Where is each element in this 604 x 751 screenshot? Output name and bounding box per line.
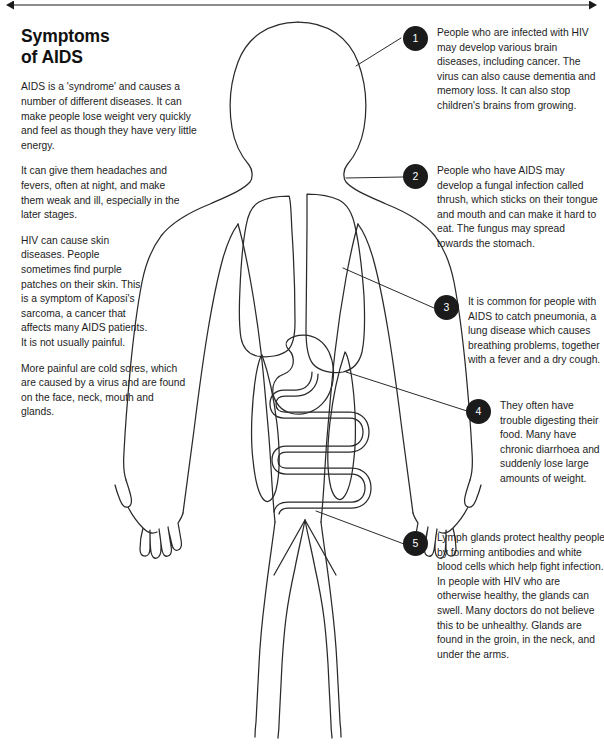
leader-line-4 — [346, 372, 467, 411]
callout-text-5: Lymph glands protect healthy people by f… — [437, 531, 604, 662]
callout-3: 3 It is common for people with AIDS to c… — [434, 295, 604, 368]
left-hand — [115, 480, 183, 558]
intro-paragraph-1: AIDS is a 'syndrome' and causes a number… — [21, 80, 207, 153]
leader-line-2 — [346, 177, 403, 178]
article-text-column: Symptoms of AIDS AIDS is a 'syndrome' an… — [21, 26, 207, 420]
intro-paragraph-3: HIV can cause skin diseases. People some… — [21, 234, 149, 351]
callout-marker-2[interactable]: 2 — [403, 164, 428, 189]
callout-1: 1 People who are infected with HIV may d… — [403, 26, 601, 114]
right-leg-inner — [305, 520, 332, 738]
top-rule-double-arrow — [0, 0, 604, 14]
callout-5: 5 Lymph glands protect healthy people by… — [403, 531, 601, 662]
callout-marker-3[interactable]: 3 — [434, 295, 459, 320]
callout-text-2: People who have AIDS may develop a funga… — [437, 164, 601, 252]
left-hip-gland — [252, 355, 280, 502]
callout-2: 2 People who have AIDS may develop a fun… — [403, 164, 601, 252]
callout-marker-1[interactable]: 1 — [403, 26, 428, 51]
stomach — [273, 335, 334, 414]
left-leg-inner — [278, 520, 305, 738]
callout-text-1: People who are infected with HIV may dev… — [437, 26, 601, 114]
page-title: Symptoms of AIDS — [21, 26, 207, 67]
callout-text-3: It is common for people with AIDS to cat… — [468, 295, 601, 368]
leader-line-3 — [343, 268, 434, 308]
left-leg-outer — [255, 522, 275, 737]
leader-line-1 — [356, 38, 401, 66]
callout-marker-4[interactable]: 4 — [466, 399, 491, 424]
diagram-page: Symptoms of AIDS AIDS is a 'syndrome' an… — [0, 0, 604, 751]
callout-text-4: They often have trouble digesting their … — [500, 399, 601, 487]
right-lung — [306, 194, 365, 373]
groin-line — [274, 520, 336, 575]
leader-line-5 — [316, 511, 404, 544]
callout-marker-5[interactable]: 5 — [403, 531, 428, 556]
intro-paragraph-4: More painful are cold sores, which are c… — [21, 362, 186, 420]
intestines-inner — [276, 374, 371, 514]
left-lung — [239, 196, 295, 357]
right-torso-side — [321, 224, 358, 522]
right-hip-gland — [328, 352, 356, 500]
right-leg-outer — [321, 522, 341, 737]
left-torso-side — [238, 224, 275, 522]
intro-paragraph-2: It can give them headaches and fevers, o… — [21, 164, 181, 222]
right-arm-inner — [358, 224, 413, 513]
intestines — [270, 372, 365, 512]
callout-4: 4 They often have trouble digesting thei… — [466, 399, 604, 487]
